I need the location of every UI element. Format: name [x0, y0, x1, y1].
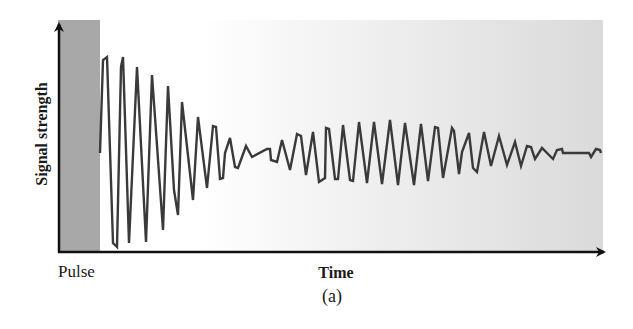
figure-caption: (a): [322, 286, 342, 307]
pulse-label: Pulse: [58, 262, 95, 282]
pulse-region: [58, 20, 100, 252]
signal-chart: [0, 0, 633, 329]
x-axis-label: Time: [318, 264, 353, 282]
plot-background: [100, 20, 603, 252]
y-axis-label: Signal strength: [33, 82, 51, 185]
